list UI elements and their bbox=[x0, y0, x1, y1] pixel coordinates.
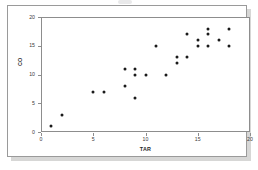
x-tick-label: 15 bbox=[195, 137, 201, 142]
data-point bbox=[134, 67, 137, 70]
data-point bbox=[228, 44, 231, 47]
scatter-plot-figure: 05101520 05101520 TAR CO bbox=[0, 0, 258, 170]
data-point bbox=[196, 44, 199, 47]
x-tick-label: 10 bbox=[143, 137, 149, 142]
data-point bbox=[186, 56, 189, 59]
data-point bbox=[175, 56, 178, 59]
data-point-layer bbox=[41, 17, 250, 132]
data-point bbox=[207, 33, 210, 36]
data-point bbox=[92, 90, 95, 93]
y-tick-label: 10 bbox=[8, 72, 35, 77]
data-point bbox=[134, 73, 137, 76]
y-tick-label: 5 bbox=[8, 101, 35, 106]
image-artifact bbox=[118, 0, 132, 4]
data-point bbox=[144, 73, 147, 76]
chart-panel: 05101520 05101520 TAR CO bbox=[7, 5, 247, 157]
data-point bbox=[196, 39, 199, 42]
data-point bbox=[134, 96, 137, 99]
y-tick-label: 20 bbox=[8, 15, 35, 20]
y-tick-label: 0 bbox=[8, 130, 35, 135]
data-point bbox=[165, 73, 168, 76]
data-point bbox=[60, 113, 63, 116]
x-tick-label: 5 bbox=[92, 137, 95, 142]
data-point bbox=[123, 85, 126, 88]
data-point bbox=[228, 27, 231, 30]
data-point bbox=[217, 39, 220, 42]
y-axis-title: CO bbox=[17, 58, 23, 67]
x-axis-title: TAR bbox=[41, 146, 250, 152]
data-point bbox=[123, 67, 126, 70]
data-point bbox=[175, 62, 178, 65]
data-point bbox=[154, 44, 157, 47]
data-point bbox=[186, 33, 189, 36]
y-tick-label: 15 bbox=[8, 43, 35, 48]
x-tick-label: 20 bbox=[247, 137, 253, 142]
data-point bbox=[207, 44, 210, 47]
data-point bbox=[207, 27, 210, 30]
data-point bbox=[50, 125, 53, 128]
x-tick-label: 0 bbox=[40, 137, 43, 142]
data-point bbox=[102, 90, 105, 93]
